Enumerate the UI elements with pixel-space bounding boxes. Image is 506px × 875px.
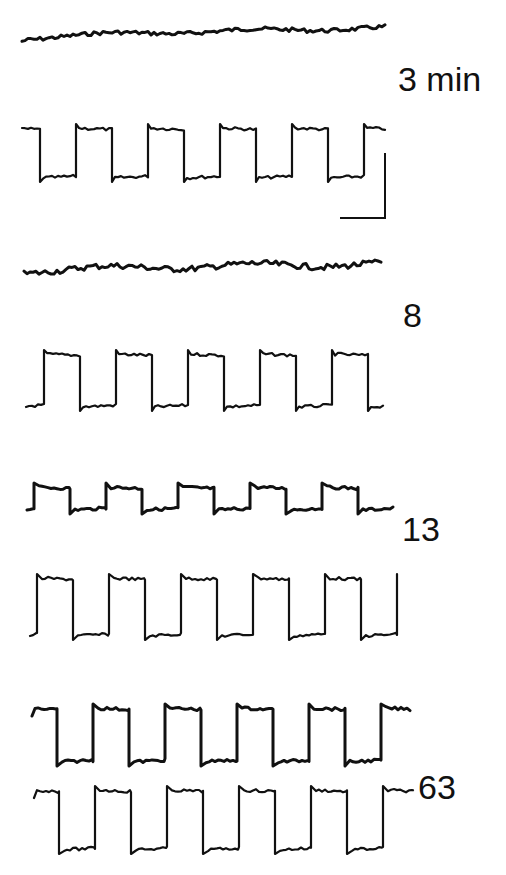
trace-3min-upper	[22, 25, 385, 42]
trace-63-lower	[34, 786, 413, 854]
trace-8-lower	[26, 350, 383, 411]
time-label-13: 13	[402, 512, 440, 546]
time-label-8: 8	[403, 298, 422, 332]
scale-bar	[340, 153, 385, 218]
trace-8-upper	[24, 260, 381, 274]
figure-canvas	[0, 0, 506, 875]
time-label-3min: 3 min	[398, 62, 481, 96]
trace-13-upper	[27, 483, 393, 514]
trace-63-upper	[32, 704, 410, 766]
trace-13-lower	[30, 574, 397, 640]
trace-3min-lower	[22, 124, 385, 182]
traces-group	[22, 25, 413, 854]
time-label-63: 63	[418, 770, 456, 804]
